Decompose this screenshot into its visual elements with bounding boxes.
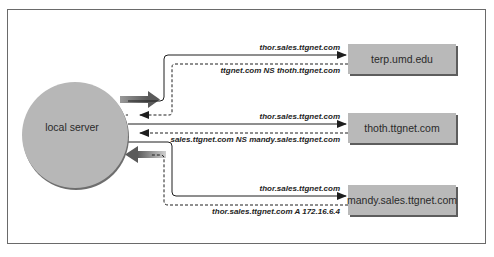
local-server-label: local server xyxy=(22,121,122,133)
server-node-mandy: mandy.sales.ttgnet.com xyxy=(348,185,456,215)
response-label-mandy: thor.sales.ttgnet.com A 172.16.6.4 xyxy=(212,207,340,216)
initial-query-arrow xyxy=(120,91,160,108)
server-node-thoth: thoth.ttgnet.com xyxy=(348,113,456,143)
server-node-terp: terp.umd.edu xyxy=(348,44,456,74)
local-server-node xyxy=(22,82,128,188)
response-label-terp: ttgnet.com NS thoth.ttgnet.com xyxy=(220,66,340,75)
response-label-thoth: sales.ttgnet.com NS mandy.sales.ttgnet.c… xyxy=(170,135,340,144)
query-label-mandy: thor.sales.ttgnet.com xyxy=(260,184,340,193)
query-label-thoth: thor.sales.ttgnet.com xyxy=(260,112,340,121)
query-label-terp: thor.sales.ttgnet.com xyxy=(260,43,340,52)
